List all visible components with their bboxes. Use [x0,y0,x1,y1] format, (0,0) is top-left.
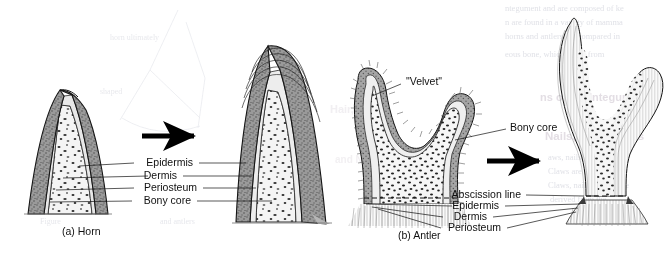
bleed-line: Figure [40,217,61,226]
label-periosteum-antler: Periosteum [448,221,501,233]
bleed-line: shaped [100,87,122,96]
figure-root: ntegument and are composed of ke n are f… [0,0,672,262]
bleed-line: n are found in a variety of mamma [505,17,623,27]
label-velvet: "Velvet" [406,75,442,87]
caption-panel-a: (a) Horn [62,225,101,237]
bleed-line: and antlers [160,217,195,226]
label-periosteum-horn: Periosteum [144,181,197,193]
label-epidermis-horn: Epidermis [146,156,193,168]
label-dermis-horn: Dermis [144,169,177,181]
horn-antler-figure: ntegument and are composed of ke n are f… [0,0,672,262]
bleed-line: eous bone, which arises from [505,49,605,59]
bleed-line: horn ultimately [110,33,159,42]
caption-panel-b: (b) Antler [398,229,441,241]
label-bony-core-antler: Bony core [510,121,557,133]
label-bony-core-horn: Bony core [144,194,191,206]
bleed-line: ntegument and are composed of ke [505,3,624,13]
